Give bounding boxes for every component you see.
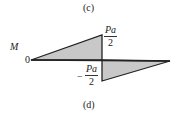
negative-peak-denominator: 2 bbox=[85, 77, 98, 87]
caption-d: (d) bbox=[83, 100, 95, 110]
negative-peak-label: Pa 2 bbox=[85, 64, 98, 87]
negative-peak-numerator: Pa bbox=[85, 64, 98, 74]
positive-peak-label: Pa 2 bbox=[104, 25, 117, 48]
moment-axis-label: M bbox=[10, 42, 18, 52]
negative-sign: − bbox=[77, 72, 83, 82]
negative-moment-region bbox=[102, 60, 170, 81]
origin-label: 0 bbox=[25, 55, 30, 65]
positive-moment-region bbox=[31, 35, 102, 60]
positive-peak-numerator: Pa bbox=[104, 25, 117, 35]
positive-peak-denominator: 2 bbox=[104, 38, 117, 48]
